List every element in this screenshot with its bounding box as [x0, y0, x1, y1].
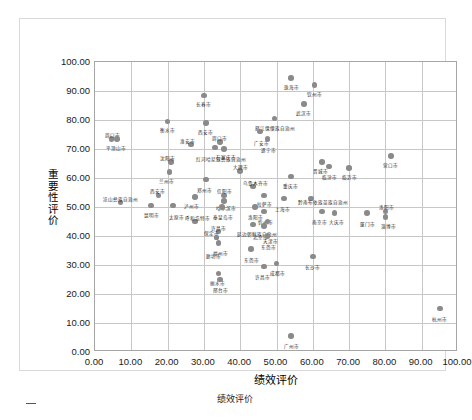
data-point-label: 大庆市	[329, 220, 344, 225]
data-point-label: 东莞市	[261, 245, 276, 250]
data-point	[364, 210, 370, 216]
data-point-label: 沈阳市	[160, 156, 175, 161]
y-axis-tick-label: 40.00	[66, 230, 90, 241]
data-point-label: 周口市	[212, 136, 227, 141]
data-point	[312, 82, 318, 88]
x-axis-tick-label: 10.00	[118, 356, 142, 367]
data-point-label: 临汾市	[322, 175, 337, 180]
y-axis-title-char: 性	[46, 192, 60, 204]
data-point	[319, 209, 325, 215]
data-point	[221, 198, 227, 204]
data-point-label: 天津市	[263, 239, 278, 244]
data-point	[346, 165, 352, 171]
data-point	[261, 209, 267, 215]
y-axis-tick-label: 60.00	[66, 172, 90, 183]
data-point-label: 凉山彝族自治州	[103, 197, 138, 202]
data-point-label: 许昌市	[211, 226, 226, 231]
data-point-label: 呼和浩特市	[185, 216, 210, 221]
data-point-label: 长沙市	[305, 265, 320, 270]
x-axis-tick-labels: 0.0010.0020.0030.0040.0050.0060.0070.008…	[94, 356, 457, 370]
y-axis-tick-label: 20.00	[66, 288, 90, 299]
data-point	[288, 174, 294, 180]
data-point	[203, 177, 209, 183]
data-point	[326, 164, 332, 170]
data-point	[221, 146, 227, 152]
data-point	[219, 204, 225, 210]
x-axis-tick-label: 100.00	[442, 356, 471, 367]
x-axis-tick-label: 90.00	[409, 356, 433, 367]
x-axis-tick-label: 60.00	[300, 356, 324, 367]
data-point-label: 郑州市	[197, 188, 212, 193]
data-point	[437, 306, 443, 312]
data-point-label: 长春市	[196, 102, 211, 107]
figure-caption: 绩效评价	[0, 392, 470, 420]
data-point	[250, 222, 256, 228]
x-axis-tick-label: 70.00	[336, 356, 360, 367]
data-point-label: 廊坊市	[206, 254, 221, 259]
data-point-label: 晋城市	[313, 169, 328, 174]
gridline-horizontal	[95, 178, 456, 179]
data-point-label: 钦州市	[307, 92, 322, 97]
data-point	[201, 93, 207, 99]
data-point-label: 珠海市	[284, 85, 299, 90]
x-axis-tick-label: 20.00	[155, 356, 179, 367]
data-point-label: 信阳市	[217, 189, 232, 194]
data-point	[261, 264, 267, 270]
data-point	[310, 254, 316, 260]
data-point-label: 西安市	[198, 130, 213, 135]
y-axis-tick-label: 90.00	[66, 85, 90, 96]
gridline-vertical	[349, 62, 350, 350]
x-axis-tick-label: 0.00	[85, 356, 104, 367]
data-point-label: 武汉市	[296, 111, 311, 116]
data-point-label: 太原市	[169, 215, 184, 220]
data-point-label: 上海市	[275, 207, 290, 212]
data-point-label: 厦门市	[360, 222, 375, 227]
x-axis-tick-label: 80.00	[373, 356, 397, 367]
data-point	[288, 333, 294, 339]
data-point	[288, 75, 294, 81]
data-point	[301, 101, 307, 107]
data-point-label: 成都市	[270, 271, 285, 276]
data-point-label: 南京市	[312, 220, 327, 225]
data-point-label: 泸州市	[184, 204, 199, 209]
y-axis-title-char: 价	[46, 215, 60, 227]
data-point-label: 邢台市	[213, 288, 228, 293]
data-point-label: 淮安市	[180, 139, 195, 144]
data-point	[383, 214, 389, 220]
data-point-label: 洛阳市	[379, 205, 394, 210]
data-point-label: 兰州市	[159, 179, 174, 184]
data-point	[248, 246, 254, 252]
data-point	[216, 240, 222, 246]
data-point-label: 重庆市	[283, 184, 298, 189]
data-point	[261, 193, 267, 199]
gridline-horizontal	[95, 91, 456, 92]
gridline-vertical	[422, 62, 423, 350]
data-point	[216, 271, 222, 277]
data-point-label: 淄博市	[381, 224, 396, 229]
gridline-vertical	[240, 62, 241, 350]
data-point	[257, 129, 263, 135]
gridline-vertical	[313, 62, 314, 350]
data-point-label: 营口市	[383, 163, 398, 168]
data-point-label: 杭州市	[432, 317, 447, 322]
data-point	[114, 136, 120, 142]
y-axis-tick-label: 0.00	[72, 346, 91, 357]
data-point-label: 拉萨市	[257, 202, 272, 207]
data-point	[252, 204, 258, 210]
y-axis-tick-label: 30.00	[66, 259, 90, 270]
chart-object-frame: 0.0010.0020.0030.0040.0050.0060.0070.008…	[19, 18, 446, 371]
data-point-label: 临沂市	[342, 175, 357, 180]
data-point-label: 昆明市	[144, 213, 159, 218]
data-point-label: 乌鲁木齐市	[243, 181, 268, 186]
data-point	[165, 119, 171, 125]
gridline-horizontal	[95, 294, 456, 295]
gridline-horizontal	[95, 323, 456, 324]
data-point-label: 西安市	[150, 189, 165, 194]
gridline-vertical	[277, 62, 278, 350]
data-point	[203, 120, 209, 126]
y-axis-tick-label: 80.00	[66, 114, 90, 125]
data-point	[192, 194, 198, 200]
data-point-label: 衡水市	[160, 128, 175, 133]
y-axis-tick-label: 70.00	[66, 143, 90, 154]
